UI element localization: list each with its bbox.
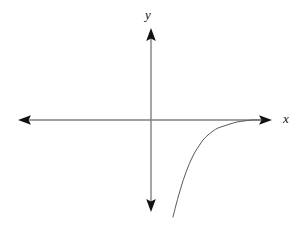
x-axis-label: x [283,112,289,125]
coordinate-plot [0,0,304,227]
graph-figure: x y [0,0,304,227]
y-axis-label: y [145,8,151,21]
plotted-curve [173,120,262,217]
